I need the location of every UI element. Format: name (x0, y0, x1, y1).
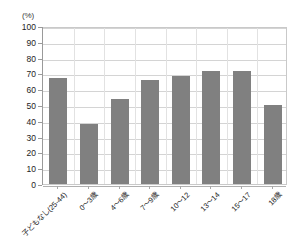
x-axis-tick-mark (241, 186, 242, 189)
y-axis-tick-mark (38, 169, 42, 170)
category-separator (135, 28, 136, 184)
bar (233, 71, 251, 184)
y-axis-tick-label: 0 (31, 181, 36, 190)
y-axis-tick-label: 90 (27, 39, 36, 48)
plot-area (42, 27, 287, 185)
y-axis-tick-label: 100 (22, 23, 36, 32)
category-separator (74, 28, 75, 184)
y-axis-tick-mark (38, 43, 42, 44)
y-axis-tick-mark (38, 185, 42, 186)
y-axis-tick-mark (38, 74, 42, 75)
x-axis-tick-mark (149, 186, 150, 189)
y-axis-tick-label: 60 (27, 86, 36, 95)
gridline (43, 186, 286, 187)
y-axis-line (42, 27, 43, 185)
y-axis-tick-mark (38, 59, 42, 60)
x-axis-tick-mark (210, 186, 211, 189)
gridline (43, 28, 286, 29)
category-separator (227, 28, 228, 184)
gridline (43, 60, 286, 61)
x-axis-tick-mark (88, 186, 89, 189)
y-axis-tick-label: 80 (27, 55, 36, 64)
bar (202, 71, 220, 184)
y-axis-tick-label: 30 (27, 134, 36, 143)
y-axis-tick-label: 10 (27, 165, 36, 174)
y-axis-tick-label: 40 (27, 118, 36, 127)
y-axis-tick-labels: 1009080706050403020100 (0, 0, 36, 250)
y-axis-tick-label: 20 (27, 149, 36, 158)
category-separator (257, 28, 258, 184)
category-separator (104, 28, 105, 184)
y-axis-tick-mark (38, 106, 42, 107)
x-axis-tick-mark (272, 186, 273, 189)
bar (49, 78, 67, 184)
y-axis-tick-mark (38, 138, 42, 139)
y-axis-tick-label: 70 (27, 70, 36, 79)
bar (141, 80, 159, 184)
y-axis-tick-mark (38, 27, 42, 28)
bar (172, 76, 190, 184)
category-separator (196, 28, 197, 184)
category-separator (166, 28, 167, 184)
bar (111, 99, 129, 184)
x-axis-tick-mark (119, 186, 120, 189)
y-axis-tick-mark (38, 153, 42, 154)
x-axis-tick-mark (57, 186, 58, 189)
gridline (43, 44, 286, 45)
y-axis-tick-mark (38, 122, 42, 123)
bar (80, 124, 98, 184)
x-axis-tick-mark (180, 186, 181, 189)
y-axis-tick-label: 50 (27, 102, 36, 111)
bar (264, 105, 282, 184)
bar-chart: (%) 1009080706050403020100 子どもなし(25-44)0… (0, 0, 300, 250)
y-axis-tick-mark (38, 90, 42, 91)
